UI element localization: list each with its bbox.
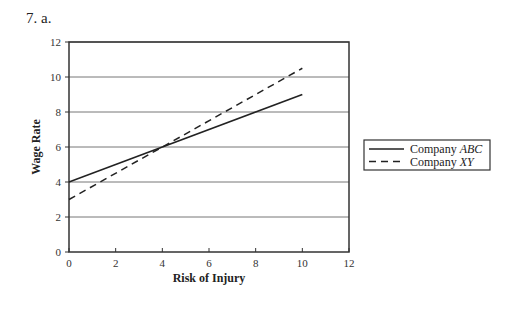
- x-tick-label: 10: [297, 257, 309, 269]
- series-line-0: [69, 95, 302, 183]
- series-line-1: [69, 68, 302, 199]
- x-tick-label: 2: [113, 257, 119, 269]
- x-tick-label: 0: [66, 257, 72, 269]
- y-tick-label: 10: [50, 71, 62, 83]
- y-tick-label: 4: [56, 176, 62, 188]
- x-tick-label: 12: [344, 257, 355, 269]
- x-tick-label: 6: [206, 257, 212, 269]
- legend-label-1: Company XY: [410, 155, 475, 169]
- y-tick-label: 6: [56, 141, 62, 153]
- y-tick-label: 8: [56, 106, 62, 118]
- y-axis-title: Wage Rate: [29, 119, 43, 175]
- y-tick-label: 2: [56, 211, 62, 223]
- x-tick-label: 4: [160, 257, 166, 269]
- x-axis-title: Risk of Injury: [173, 271, 246, 285]
- x-tick-label: 8: [253, 257, 259, 269]
- y-tick-label: 0: [56, 246, 62, 258]
- y-tick-label: 12: [50, 36, 61, 48]
- line-chart: 024681012024681012Risk of InjuryWage Rat…: [0, 0, 514, 310]
